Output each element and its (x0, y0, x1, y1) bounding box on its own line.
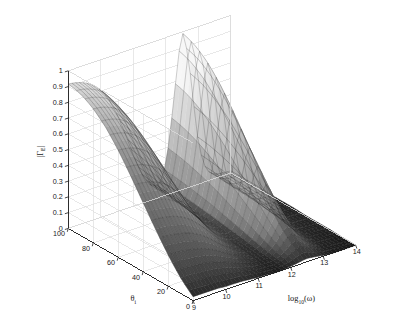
surface-plot-figure: 00.10.20.30.40.50.60.70.80.9102040608010… (0, 0, 403, 311)
z-tick-label: 0.8 (53, 98, 63, 107)
y-tick-label: 100 (53, 229, 65, 238)
x-tick-label: 9 (192, 303, 196, 311)
y-tick-label: 20 (157, 287, 165, 296)
svg-text:|ΓE|: |ΓE| (36, 145, 46, 157)
z-tick-label: 0.6 (53, 129, 63, 138)
x-tick-label: 10 (223, 292, 231, 301)
z-axis-title: |ΓE| (36, 145, 46, 157)
z-tick-label: 0.7 (53, 114, 63, 123)
z-tick-label: 0.5 (53, 145, 63, 154)
y-tick-label: 80 (82, 244, 90, 253)
z-tick-label: 0.1 (53, 208, 63, 217)
z-tick-label: 0.2 (53, 192, 63, 201)
x-tick-label: 14 (353, 247, 361, 256)
x-tick-label: 13 (320, 258, 328, 267)
y-tick-label: 60 (107, 258, 115, 267)
x-tick-label: 11 (255, 281, 262, 290)
y-tick-label: 0 (186, 302, 190, 311)
z-tick-label: 0.9 (53, 82, 63, 91)
z-tick-label: 0.4 (53, 161, 63, 170)
plot-canvas: 00.10.20.30.40.50.60.70.80.9102040608010… (0, 0, 403, 311)
z-tick-label: 1 (59, 66, 63, 75)
x-tick-label: 12 (288, 270, 296, 279)
z-tick-label: 0.3 (53, 177, 63, 186)
y-tick-label: 40 (132, 273, 140, 282)
